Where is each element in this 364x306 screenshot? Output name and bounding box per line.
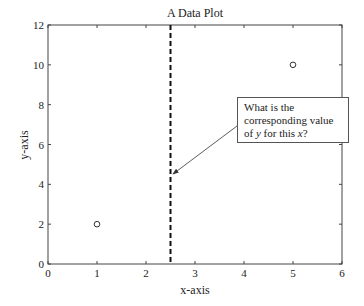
x-axis-label: x-axis: [180, 283, 210, 297]
axis-ticks: [48, 25, 342, 264]
x-tick-label: 2: [143, 267, 149, 279]
y-tick-label: 6: [39, 139, 45, 151]
annotation-line-3: of y for this x?: [244, 127, 342, 140]
annotation-line-1: What is the: [244, 101, 342, 114]
data-points: [94, 62, 296, 227]
y-tick-label: 12: [33, 19, 44, 31]
x-tick-label: 1: [94, 267, 100, 279]
y-tick-label: 2: [39, 218, 45, 230]
y-tick-label: 4: [39, 178, 45, 190]
x-tick-labels: 0123456: [45, 267, 345, 279]
annotation-arrow: [173, 126, 237, 174]
x-tick-label: 3: [192, 267, 198, 279]
y-tick-labels: 024681012: [33, 19, 45, 270]
y-axis-label: y-axis: [17, 130, 31, 160]
chart-title: A Data Plot: [167, 6, 224, 20]
data-point-marker: [94, 221, 100, 227]
annotation-box: What is the corresponding value of y for…: [237, 97, 349, 143]
x-tick-label: 4: [241, 267, 247, 279]
chart: 0123456 024681012 A Data Plot x-axis y-a…: [0, 0, 364, 306]
y-tick-label: 0: [39, 258, 45, 270]
x-tick-label: 5: [290, 267, 296, 279]
y-tick-label: 8: [39, 99, 45, 111]
x-tick-label: 0: [45, 267, 51, 279]
plot-area: [48, 25, 342, 264]
annotation-line-2: corresponding value: [244, 114, 342, 127]
y-tick-label: 10: [33, 59, 45, 71]
data-point-marker: [290, 62, 296, 68]
x-tick-label: 6: [339, 267, 345, 279]
